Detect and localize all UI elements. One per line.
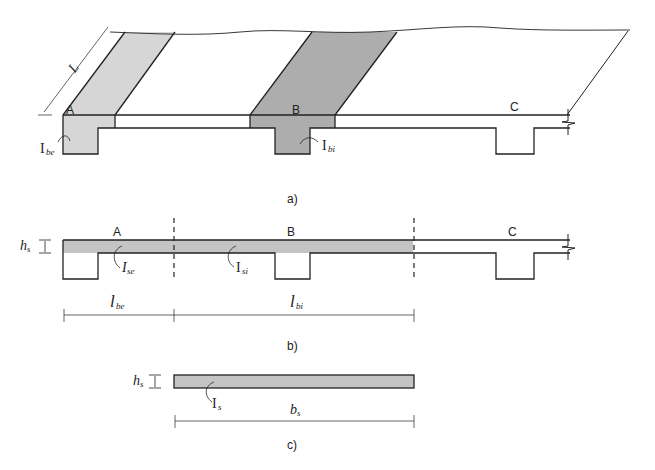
svg-text:bi: bi [296,301,304,311]
slab-thickness-label: h [20,238,27,253]
inertia-interior-beam: I [322,138,327,153]
panel-b: A B C h s I se I si l be l bi b) [20,218,575,353]
beam-label-a: A [66,103,74,117]
panel-a: L A B C I be I bi a) [38,27,630,206]
beam-label-b: B [287,225,295,239]
caption-b: b) [287,339,298,353]
svg-text:se: se [127,266,135,276]
beam-label-c: C [508,225,517,239]
beam-label-c: C [510,100,519,114]
slab-thickness-label: h [133,373,140,388]
slab-width-label: b [290,402,297,417]
svg-text:s: s [297,408,301,418]
beam-label-b: B [292,103,300,117]
svg-text:bi: bi [328,144,336,154]
inertia-edge-beam: I [40,141,45,156]
edge-width-label: l [110,292,115,311]
strip-a-plan [63,32,175,115]
svg-text:si: si [242,266,249,276]
slab-section [174,375,414,388]
slab-beam-diagram: L A B C I be I bi a) A B C h s I se [0,0,655,470]
inertia-interior-slab: I [236,260,241,275]
strip-b-plan [250,32,397,115]
beam-label-a: A [113,225,121,239]
break-symbol [562,109,575,135]
panel-c: h s I s b s c) [133,373,414,452]
beam-a-section [63,115,115,154]
svg-text:be: be [46,147,55,157]
length-label: L [65,60,82,76]
svg-text:be: be [116,301,125,311]
slab-inertia-label: I [212,396,217,411]
caption-a: a) [287,192,298,206]
svg-text:s: s [140,379,144,389]
svg-text:s: s [218,402,222,412]
interior-width-label: l [290,292,295,311]
svg-text:s: s [27,244,31,254]
caption-c: c) [287,438,297,452]
